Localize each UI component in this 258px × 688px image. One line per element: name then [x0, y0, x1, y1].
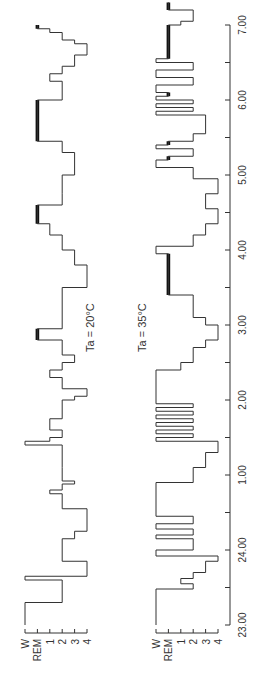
stage-tick-label: 3 — [201, 639, 212, 645]
panel-ta-20: WREM1234 — [20, 25, 93, 661]
stage-axis: WREM1234 — [151, 629, 224, 661]
stage-tick-label: 2 — [57, 639, 68, 645]
time-tick-label: 23.00 — [237, 612, 248, 637]
time-tick-label: 4.00 — [237, 240, 248, 260]
stage-tick-label: 1 — [45, 639, 56, 645]
stage-tick-label: REM — [163, 639, 174, 661]
time-tick-label: 7.00 — [237, 15, 248, 35]
stage-tick-label: 2 — [188, 639, 199, 645]
panel-label-ta-20: Ta = 20°C — [84, 303, 96, 352]
stage-tick-label: 4 — [213, 639, 224, 645]
stage-tick-label: 3 — [70, 639, 81, 645]
time-tick-label: 3.00 — [237, 315, 248, 335]
time-tick-label: 1.00 — [237, 465, 248, 485]
panel-ta-35: WREM1234 — [151, 3, 224, 662]
time-tick-label: 24.00 — [237, 537, 248, 562]
stage-axis: WREM1234 — [20, 629, 93, 661]
hypnogram-chart: WREM1234 WREM1234 23.0024.001.002.003.00… — [0, 0, 258, 688]
hypnogram-line — [25, 25, 87, 625]
time-tick-label: 5.00 — [237, 165, 248, 185]
hypnogram-svg: WREM1234 WREM1234 23.0024.001.002.003.00… — [0, 0, 258, 688]
stage-tick-label: W — [20, 638, 31, 648]
time-axis: 23.0024.001.002.003.004.005.006.007.00 — [225, 15, 248, 638]
stage-tick-label: 4 — [82, 639, 93, 645]
stage-tick-label: W — [151, 638, 162, 648]
panel-label-ta-35: Ta = 35°C — [136, 303, 148, 352]
time-tick-label: 6.00 — [237, 90, 248, 110]
time-tick-label: 2.00 — [237, 390, 248, 410]
hypnogram-line — [156, 3, 218, 626]
stage-tick-label: 1 — [176, 639, 187, 645]
stage-tick-label: REM — [32, 639, 43, 661]
